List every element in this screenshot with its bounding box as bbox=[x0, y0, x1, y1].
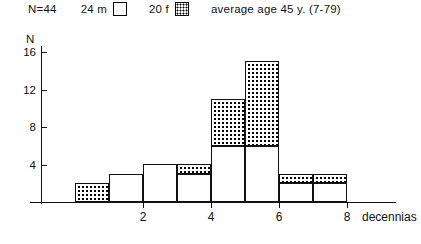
bar-decennia-8 bbox=[313, 174, 347, 202]
legend-male-swatch-icon bbox=[113, 2, 127, 16]
legend-male-label: 24 m bbox=[81, 3, 107, 15]
x-axis-line bbox=[30, 202, 396, 203]
x-tick-6 bbox=[279, 202, 280, 208]
bar-segment-female-5 bbox=[211, 99, 245, 146]
bar-decennia-6 bbox=[245, 61, 279, 202]
y-tick-4 bbox=[41, 165, 47, 166]
x-tick-8 bbox=[347, 202, 348, 208]
legend-male: 24 m bbox=[81, 2, 127, 16]
bar-decennia-3 bbox=[143, 164, 177, 202]
bar-segment-female-8 bbox=[313, 174, 347, 183]
y-axis-line bbox=[41, 46, 42, 204]
bar-segment-male-2 bbox=[109, 174, 143, 202]
x-tick-2 bbox=[143, 202, 144, 208]
x-tick-4 bbox=[211, 202, 212, 208]
bar-segment-male-8 bbox=[313, 183, 347, 202]
bar-segment-male-5 bbox=[211, 146, 245, 202]
y-tick-12 bbox=[41, 90, 47, 91]
legend-female-label: 20 f bbox=[149, 3, 169, 15]
x-tick-label-2: 2 bbox=[123, 210, 163, 224]
x-tick-label-4: 4 bbox=[191, 210, 231, 224]
bar-segment-male-3 bbox=[143, 164, 177, 202]
y-tick-label-8: 8 bbox=[10, 121, 36, 133]
y-tick-label-4: 4 bbox=[10, 159, 36, 171]
bar-decennia-4 bbox=[177, 164, 211, 202]
y-tick-label-12: 12 bbox=[10, 84, 36, 96]
bar-segment-female-4 bbox=[177, 164, 211, 173]
bar-segment-female-7 bbox=[279, 174, 313, 183]
legend-average-age: average age 45 y. (7-79) bbox=[211, 3, 341, 15]
chart-legend: N=44 24 m 20 f average age 45 y. (7-79) bbox=[28, 2, 341, 16]
bar-decennia-7 bbox=[279, 174, 313, 202]
bar-segment-male-4 bbox=[177, 174, 211, 202]
bar-decennia-1 bbox=[75, 183, 109, 202]
bar-decennia-5 bbox=[211, 99, 245, 202]
x-axis-unit-label: decennias bbox=[362, 210, 417, 224]
histogram-figure: N=44 24 m 20 f average age 45 y. (7-79) … bbox=[0, 0, 421, 244]
bar-segment-female-1 bbox=[75, 183, 109, 202]
x-tick-label-6: 6 bbox=[259, 210, 299, 224]
legend-female: 20 f bbox=[149, 2, 189, 16]
bar-segment-female-6 bbox=[245, 61, 279, 145]
y-tick-8 bbox=[41, 127, 47, 128]
y-tick-label-16: 16 bbox=[10, 46, 36, 58]
y-tick-16 bbox=[41, 52, 47, 53]
legend-total: N=44 bbox=[28, 3, 57, 15]
bar-decennia-2 bbox=[109, 174, 143, 202]
bar-segment-male-7 bbox=[279, 183, 313, 202]
y-axis-title: N bbox=[26, 33, 34, 45]
bar-segment-male-6 bbox=[245, 146, 279, 202]
legend-female-swatch-icon bbox=[175, 2, 189, 16]
x-tick-label-8: 8 bbox=[327, 210, 367, 224]
